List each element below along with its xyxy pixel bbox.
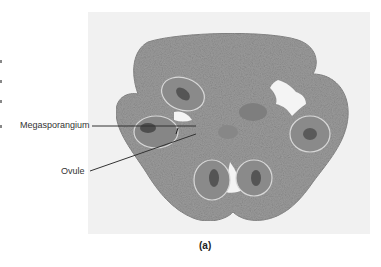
ovary-cross-section-micrograph: [88, 12, 370, 234]
page-edge-mark: [0, 80, 2, 83]
page-edge-mark: [0, 125, 2, 128]
page-edge-mark: [0, 60, 2, 63]
ovule-label: Ovule: [61, 166, 85, 176]
micrograph-panel: [88, 12, 370, 234]
megasporangium-label: Megasporangium: [20, 120, 90, 130]
panel-caption: (a): [199, 240, 211, 251]
ovule: [134, 116, 178, 148]
page-edge-mark: [0, 100, 2, 103]
